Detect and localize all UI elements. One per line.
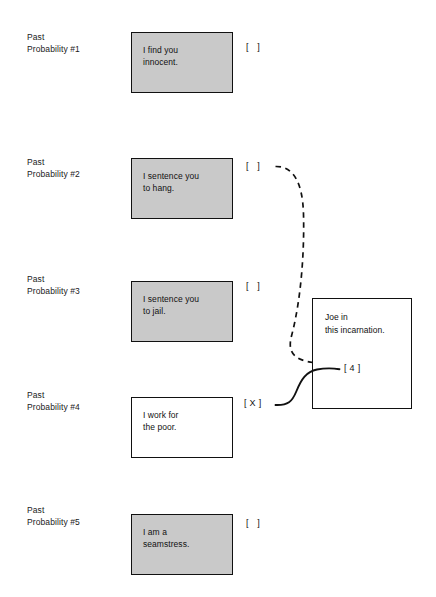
statement-text-2: I sentence you to hang. (143, 170, 199, 194)
row-marker-1[interactable]: [ ] (246, 42, 260, 53)
dashed-connector (276, 166, 314, 362)
row-marker-3[interactable]: [ ] (246, 281, 260, 292)
statement-box-2[interactable]: I sentence you to hang. (131, 158, 233, 219)
target-text: Joe in this incarnation. (325, 311, 385, 337)
row-label-2: Past Probability #2 (27, 157, 80, 180)
statement-box-4[interactable]: I work for the poor. (131, 397, 233, 458)
statement-text-4: I work for the poor. (143, 409, 178, 433)
statement-text-1: I find you innocent. (143, 44, 178, 68)
statement-text-5: I am a seamstress. (143, 526, 189, 550)
statement-box-3[interactable]: I sentence you to jail. (131, 281, 233, 342)
row-label-4: Past Probability #4 (27, 390, 80, 413)
row-label-3: Past Probability #3 (27, 274, 80, 297)
statement-text-3: I sentence you to jail. (143, 293, 199, 317)
target-tag: [ 4 ] (344, 363, 361, 374)
row-label-1: Past Probability #1 (27, 32, 80, 55)
row-label-5: Past Probability #5 (27, 505, 80, 528)
row-marker-2[interactable]: [ ] (246, 161, 260, 172)
row-marker-4[interactable]: [ X ] (244, 398, 262, 409)
row-marker-5[interactable]: [ ] (246, 518, 260, 529)
diagram-canvas: Past Probability #1 I find you innocent.… (0, 0, 436, 597)
statement-box-1[interactable]: I find you innocent. (131, 32, 233, 93)
statement-box-5[interactable]: I am a seamstress. (131, 514, 233, 575)
